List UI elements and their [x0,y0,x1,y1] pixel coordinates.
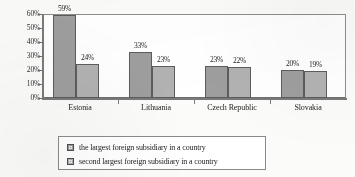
x-axis-label-lithuania: Lithuania [118,103,194,112]
y-axis-tick-label: 30% [0,51,40,60]
y-axis-tick-label: 20% [0,65,40,74]
legend-item: second largest foreign subsidiary in a c… [67,154,265,168]
x-axis-tick-mark [270,100,271,104]
bar-slovakia-series-2 [304,71,327,98]
y-axis-tick-label: 0% [0,93,40,102]
y-axis-tick-mark [38,98,42,99]
x-axis-label-czech-republic: Czech Republic [194,103,270,112]
y-axis-tick-label: 10% [0,79,40,88]
y-axis-tick-label: 40% [0,37,40,46]
x-axis-tick-mark [118,100,119,104]
bar-chart: 0%10%20%30%40%50%60% 59%24%33%23%23%22%2… [0,0,355,177]
bar-value-label: 19% [300,60,331,69]
legend-label-series-2: second largest foreign subsidiary in a c… [79,157,218,166]
x-axis-label-estonia: Estonia [42,103,118,112]
bar-czech-republic-series-1 [205,66,228,98]
x-axis-label-slovakia: Slovakia [270,103,346,112]
legend-item: the largest foreign subsidiary in a coun… [67,140,265,154]
y-axis-tick-label: 60% [0,9,40,18]
bar-lithuania-series-2 [152,66,175,98]
y-axis-tick-label: 50% [0,23,40,32]
bar-value-label: 59% [49,4,80,13]
bar-estonia-series-2 [76,64,99,98]
bars-layer: 59%24%33%23%23%22%20%19% [42,14,346,98]
x-axis-tick-mark [194,100,195,104]
bar-value-label: 24% [72,53,103,62]
legend-label-series-1: the largest foreign subsidiary in a coun… [79,143,206,152]
legend-swatch-series-2 [67,158,74,165]
chart-legend: the largest foreign subsidiary in a coun… [58,136,266,170]
bar-slovakia-series-1 [281,70,304,98]
bar-value-label: 22% [224,56,255,65]
bar-value-label: 33% [125,41,156,50]
bar-czech-republic-series-2 [228,67,251,98]
bar-value-label: 23% [148,55,179,64]
legend-swatch-series-1 [67,144,74,151]
